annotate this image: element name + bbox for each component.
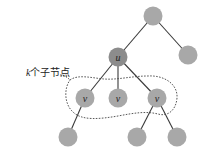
tree-canvas: u v v v <box>0 0 204 158</box>
label-v1: v <box>83 93 88 104</box>
k-children-caption: k个子节点 <box>26 67 70 79</box>
label-v3: v <box>155 93 160 104</box>
node-right <box>179 46 198 65</box>
tree-diagram: u v v v k个子节点 <box>0 0 204 158</box>
label-v2: v <box>116 93 121 104</box>
label-u: u <box>116 52 121 63</box>
node-leaf3 <box>168 128 187 147</box>
node-root <box>144 7 163 26</box>
node-leaf2 <box>128 128 147 147</box>
caption-text: 个子节点 <box>30 67 70 78</box>
node-leaf1 <box>59 128 78 147</box>
